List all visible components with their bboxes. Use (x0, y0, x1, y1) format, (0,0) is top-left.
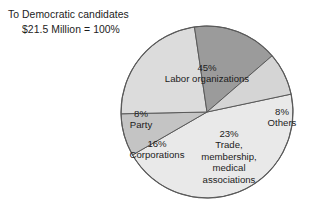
pie-chart-figure: To Democratic candidates $21.5 Million=1… (0, 0, 313, 216)
slice-name-party: Party (116, 119, 166, 130)
slice-percent-party: 8% (116, 108, 166, 119)
slice-label-labor: 45% Labor organizations (146, 62, 268, 85)
slice-label-party: 8% Party (116, 108, 166, 131)
slice-percent-trade: 23% (190, 128, 268, 139)
slice-name-trade-line1: Trade, (190, 139, 268, 150)
caption-total-amount: $21.5 Million (22, 24, 81, 35)
slice-name-trade-line4: associations (190, 174, 268, 185)
slice-percent-corporations: 16% (115, 138, 199, 149)
caption-equals-sign: = (84, 24, 90, 35)
slice-name-trade-line3: medical (190, 162, 268, 173)
slice-label-others: 8% Others (256, 106, 308, 129)
slice-label-trade: 23% Trade, membership, medical associati… (190, 128, 268, 185)
chart-caption: To Democratic candidates $21.5 Million=1… (8, 9, 129, 35)
caption-title: To Democratic candidates (8, 9, 129, 20)
caption-total-percent: 100% (93, 24, 120, 35)
slice-percent-labor: 45% (146, 62, 268, 73)
slice-percent-others: 8% (256, 106, 308, 117)
caption-total: $21.5 Million=100% (22, 24, 129, 35)
slice-name-labor: Labor organizations (146, 73, 268, 84)
slice-label-corporations: 16% Corporations (115, 138, 199, 161)
slice-name-corporations: Corporations (115, 149, 199, 160)
slice-name-trade-line2: membership, (190, 151, 268, 162)
